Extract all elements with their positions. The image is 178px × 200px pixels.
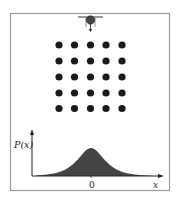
peg <box>87 73 94 80</box>
peg <box>102 57 109 64</box>
peg <box>71 41 78 48</box>
peg <box>118 105 125 112</box>
peg <box>55 57 62 64</box>
galton-diagram: P(x) 0 x <box>0 0 178 200</box>
peg <box>71 105 78 112</box>
peg <box>118 89 125 96</box>
peg <box>71 89 78 96</box>
peg <box>55 41 62 48</box>
peg <box>118 73 125 80</box>
peg <box>87 105 94 112</box>
peg <box>87 41 94 48</box>
peg <box>87 89 94 96</box>
peg <box>55 73 62 80</box>
peg <box>118 57 125 64</box>
peg <box>118 41 125 48</box>
peg <box>55 105 62 112</box>
peg <box>71 57 78 64</box>
peg <box>102 105 109 112</box>
peg <box>55 89 62 96</box>
peg <box>102 89 109 96</box>
x-axis-label: x <box>153 180 158 190</box>
x-tick-zero: 0 <box>89 180 95 190</box>
y-axis-label: P(x) <box>13 139 33 150</box>
peg <box>102 41 109 48</box>
peg <box>102 73 109 80</box>
peg <box>71 73 78 80</box>
peg <box>87 57 94 64</box>
